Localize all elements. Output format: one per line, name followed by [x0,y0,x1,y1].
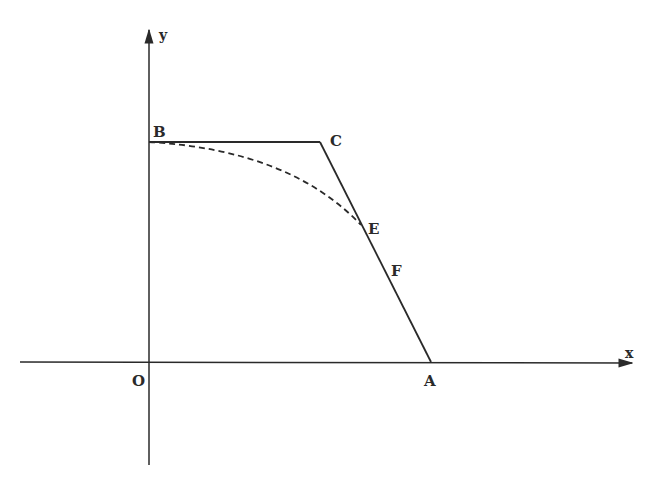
segment-ca [320,142,431,362]
point-label-a: A [423,372,436,390]
y-axis-label: y [158,27,168,43]
point-label-b: B [153,123,166,141]
point-label-f: F [391,262,402,280]
curve-be [149,142,361,225]
point-label-e: E [368,220,379,238]
x-axis-label: x [625,345,634,361]
origin-label: O [132,372,145,390]
x-axis [20,362,632,363]
diagram-canvas: y x O B C E F A [0,0,658,489]
point-label-c: C [330,132,342,150]
